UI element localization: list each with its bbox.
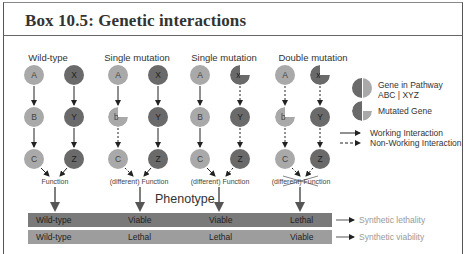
phenotype-cell: Viable (209, 215, 232, 225)
gene-node-b: B (190, 107, 210, 127)
gene-node-z: Z (310, 149, 330, 169)
gene-node-x-mutated: x* (230, 65, 250, 85)
phenotype-title: Phenotype (155, 192, 215, 206)
legend-mutated-gene: Mutated Gene (378, 106, 432, 116)
gene-in-pathway-icon (352, 78, 372, 98)
gene-node-b: B (24, 107, 44, 127)
gene-node-a: A (24, 65, 44, 85)
gene-node-z: Z (148, 149, 168, 169)
phenotype-cell: Lethal (290, 215, 313, 225)
function-label-crossed: (different) Function (251, 178, 351, 185)
phenotype-cell: Wild-type (36, 215, 71, 225)
gene-node-a: A (275, 65, 295, 85)
phenotype-cell: Lethal (209, 232, 232, 242)
gene-node-z: Z (64, 149, 84, 169)
legend-gene-in-pathway-sub: ABC | XYZ (378, 90, 419, 100)
gene-node-a: A (108, 65, 128, 85)
gene-node-y: Y (230, 107, 250, 127)
gene-node-x: X (64, 65, 84, 85)
phenotype-cell: Wild-type (36, 232, 71, 242)
gene-node-a: A (190, 65, 210, 85)
phenotype-row-synthetic-viability: Wild-type Lethal Lethal Viable (28, 230, 332, 244)
phenotype-cell: Lethal (128, 232, 151, 242)
gene-node-y: Y (310, 107, 330, 127)
mutated-gene-icon (352, 101, 372, 121)
gene-node-x-mutated: x* (310, 65, 330, 85)
phenotype-cell: Viable (290, 232, 313, 242)
gene-node-c: C (190, 149, 210, 169)
gene-node-y: Y (64, 107, 84, 127)
legend-working-interaction: Working Interaction (370, 128, 443, 138)
gene-node-x: X (148, 65, 168, 85)
outcome-synthetic-viability: Synthetic viability (359, 232, 424, 242)
gene-node-c: C (24, 149, 44, 169)
gene-node-c: C (108, 149, 128, 169)
gene-node-c: C (275, 149, 295, 169)
gene-node-b-mutated: b* (275, 107, 295, 127)
phenotype-row-synthetic-lethality: Wild-type Viable Viable Lethal (28, 213, 332, 227)
gene-node-b-mutated: b* (108, 107, 128, 127)
col4-arrows (283, 86, 320, 186)
outcome-synthetic-lethality: Synthetic lethality (359, 215, 425, 225)
legend-non-working-interaction: Non-Working Interaction (370, 138, 462, 148)
legend-gene-in-pathway: Gene in Pathway (378, 80, 443, 90)
gene-node-y: Y (148, 107, 168, 127)
phenotype-cell: Viable (128, 215, 151, 225)
gene-node-z: Z (230, 149, 250, 169)
